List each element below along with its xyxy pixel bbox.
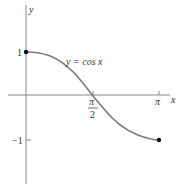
- cosine-graph: y x 1 −1 π π 2 y = cos x: [0, 0, 179, 195]
- y-axis-label: y: [28, 4, 34, 15]
- x-tick-label-pi-over-2-den: 2: [90, 109, 95, 120]
- x-tick-label-pi: π: [155, 96, 161, 107]
- endpoint-start: [24, 50, 28, 54]
- x-axis-label: x: [170, 94, 176, 105]
- y-tick-label-minus-1: −1: [12, 135, 23, 146]
- endpoint-end: [157, 138, 161, 142]
- y-tick-label-1: 1: [17, 47, 22, 58]
- function-label: y = cos x: [65, 56, 103, 67]
